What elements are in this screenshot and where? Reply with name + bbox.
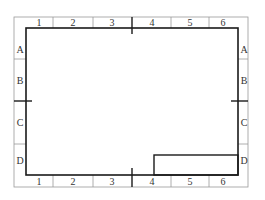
left-row-label: D — [16, 155, 23, 166]
top-col-label: 3 — [110, 17, 115, 28]
bottom-col-label: 3 — [110, 176, 115, 187]
left-row-label: B — [17, 75, 24, 86]
top-col-label: 1 — [37, 17, 42, 28]
top-col-label: 5 — [188, 17, 193, 28]
bottom-zone-dividers — [53, 175, 209, 187]
bottom-col-label: 6 — [221, 176, 226, 187]
bottom-col-label: 5 — [188, 176, 193, 187]
outer-border — [14, 17, 248, 187]
top-zone-dividers — [53, 17, 209, 28]
bottom-column-labels: 1 2 3 4 5 6 — [37, 176, 226, 187]
top-column-labels: 1 2 3 4 5 6 — [37, 17, 226, 28]
right-row-labels: A B C D — [240, 44, 248, 166]
centering-marks — [14, 17, 248, 187]
left-row-label: C — [17, 117, 24, 128]
top-col-label: 2 — [71, 17, 76, 28]
left-row-label: A — [16, 44, 24, 55]
right-row-label: D — [240, 155, 247, 166]
top-col-label: 6 — [221, 17, 226, 28]
drawing-frame: 1 2 3 4 5 6 1 2 3 4 5 6 A B C D A B C D — [0, 0, 265, 200]
left-row-labels: A B C D — [16, 44, 24, 166]
bottom-col-label: 4 — [150, 176, 155, 187]
title-block — [154, 155, 238, 175]
inner-border — [26, 28, 238, 175]
right-row-label: B — [241, 75, 248, 86]
top-col-label: 4 — [150, 17, 155, 28]
bottom-col-label: 2 — [71, 176, 76, 187]
right-row-label: A — [240, 44, 248, 55]
drawing-frame-svg: 1 2 3 4 5 6 1 2 3 4 5 6 A B C D A B C D — [0, 0, 265, 200]
bottom-col-label: 1 — [37, 176, 42, 187]
right-row-label: C — [241, 117, 248, 128]
